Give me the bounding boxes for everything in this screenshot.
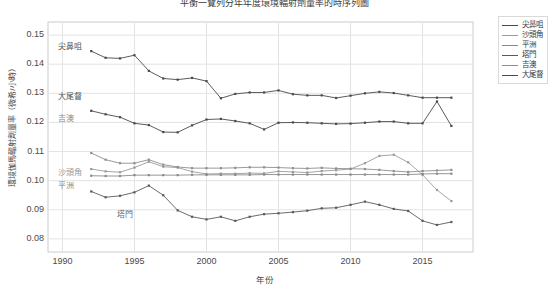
series-marker	[321, 207, 323, 209]
legend-item-吉澳[interactable]: 吉澳	[502, 60, 543, 70]
series-marker	[133, 162, 135, 164]
series-marker	[277, 170, 279, 172]
series-marker	[220, 216, 222, 218]
series-marker	[335, 97, 337, 99]
series-marker	[436, 224, 438, 226]
series-marker	[321, 170, 323, 172]
series-marker	[349, 95, 351, 97]
series-marker	[119, 162, 121, 164]
series-marker	[162, 174, 164, 176]
series-marker	[234, 174, 236, 176]
chart-legend[interactable]: 尖鼻咀沙頭角平洲塔門吉澳大尾督	[498, 16, 548, 84]
plot-area	[0, 0, 549, 295]
series-marker	[349, 123, 351, 125]
series-marker	[407, 210, 409, 212]
series-marker	[292, 171, 294, 173]
series-marker	[249, 166, 251, 168]
series-marker	[421, 173, 423, 175]
series-marker	[306, 171, 308, 173]
series-marker	[249, 174, 251, 176]
series-marker	[205, 218, 207, 220]
series-marker	[378, 120, 380, 122]
series-marker	[321, 173, 323, 175]
series-marker	[378, 204, 380, 206]
series-marker	[263, 91, 265, 93]
series-marker	[263, 166, 265, 168]
series-marker	[364, 162, 366, 164]
series-marker	[119, 57, 121, 59]
series-marker	[321, 94, 323, 96]
series-marker	[177, 79, 179, 81]
series-marker	[162, 77, 164, 79]
legend-line-icon	[502, 55, 518, 56]
series-marker	[191, 167, 193, 169]
chart-figure: 平衡一覽列分年年度環境輻射劑量率的時序列圖 環境伽馬輻射劑量率（微希/小時） 年…	[0, 0, 549, 295]
series-marker	[421, 220, 423, 222]
series-marker	[220, 118, 222, 120]
series-marker	[306, 173, 308, 175]
series-marker	[148, 161, 150, 163]
series-marker	[349, 173, 351, 175]
series-marker	[220, 167, 222, 169]
series-marker	[378, 91, 380, 93]
series-marker	[436, 100, 438, 102]
series-marker	[119, 175, 121, 177]
series-marker	[191, 216, 193, 218]
series-marker	[105, 170, 107, 172]
legend-line-icon	[502, 75, 518, 76]
series-marker	[364, 92, 366, 94]
legend-line-icon	[502, 65, 518, 66]
series-marker	[407, 122, 409, 124]
series-marker	[263, 128, 265, 130]
series-marker	[407, 94, 409, 96]
legend-label: 沙頭角	[522, 30, 543, 40]
series-marker	[249, 122, 251, 124]
series-marker	[306, 122, 308, 124]
series-marker	[335, 173, 337, 175]
series-marker	[234, 93, 236, 95]
legend-item-大尾督[interactable]: 大尾督	[502, 70, 543, 80]
series-marker	[148, 70, 150, 72]
series-marker	[234, 120, 236, 122]
series-marker	[450, 173, 452, 175]
series-marker	[133, 174, 135, 176]
legend-item-平洲[interactable]: 平洲	[502, 40, 543, 50]
series-marker	[450, 200, 452, 202]
legend-label: 尖鼻咀	[522, 20, 543, 30]
legend-label: 平洲	[522, 40, 536, 50]
series-marker	[364, 122, 366, 124]
series-marker	[450, 169, 452, 171]
series-marker	[105, 57, 107, 59]
series-marker	[133, 122, 135, 124]
series-marker	[436, 189, 438, 191]
legend-item-沙頭角[interactable]: 沙頭角	[502, 30, 543, 40]
series-marker	[105, 159, 107, 161]
series-marker	[364, 201, 366, 203]
series-marker	[321, 122, 323, 124]
series-marker	[421, 97, 423, 99]
series-marker	[148, 185, 150, 187]
series-marker	[90, 168, 92, 170]
series-marker	[177, 174, 179, 176]
series-marker	[349, 168, 351, 170]
series-marker	[364, 173, 366, 175]
series-marker	[191, 77, 193, 79]
series-marker	[177, 209, 179, 211]
legend-item-尖鼻咀[interactable]: 尖鼻咀	[502, 20, 543, 30]
series-marker	[407, 173, 409, 175]
series-marker	[162, 194, 164, 196]
series-marker	[393, 170, 395, 172]
series-marker	[90, 110, 92, 112]
legend-label: 塔門	[522, 50, 536, 60]
series-marker	[450, 97, 452, 99]
series-marker	[205, 167, 207, 169]
series-marker	[393, 173, 395, 175]
series-marker	[335, 207, 337, 209]
series-marker	[148, 174, 150, 176]
series-marker	[220, 97, 222, 99]
legend-item-塔門[interactable]: 塔門	[502, 50, 543, 60]
series-marker	[421, 122, 423, 124]
series-marker	[90, 152, 92, 154]
legend-line-icon	[502, 45, 518, 46]
series-marker	[177, 131, 179, 133]
